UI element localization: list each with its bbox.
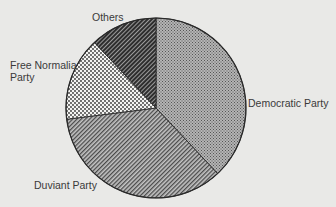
label-others: Others — [92, 11, 124, 23]
label-free-normalia-party: Free Normalia Party — [10, 59, 77, 83]
label-democratic-party: Democratic Party — [248, 97, 329, 109]
label-duviant-party: Duviant Party — [34, 179, 97, 191]
